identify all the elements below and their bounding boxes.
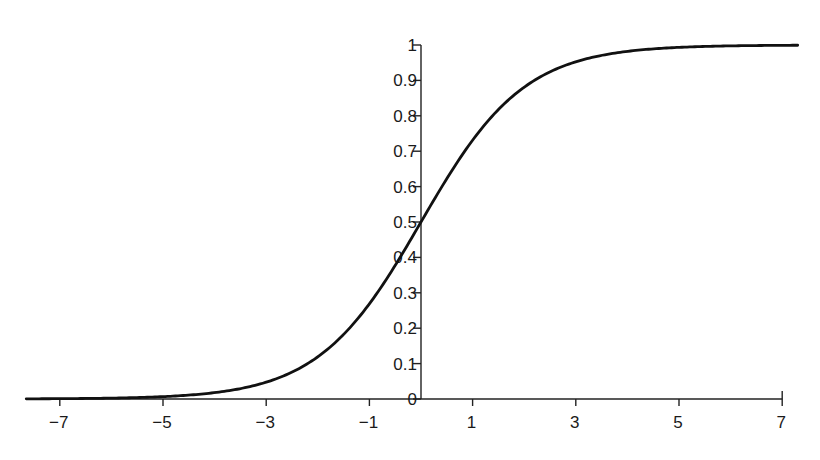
y-tick-label: 0.9 — [393, 71, 417, 90]
x-tick-label: −5 — [152, 413, 171, 432]
sigmoid-chart: −7−5−3−11357 00.10.20.30.40.50.60.70.80.… — [0, 0, 820, 460]
y-tick-label: 0.2 — [393, 319, 417, 338]
y-tick-label: 0.6 — [393, 178, 417, 197]
x-tick-label: 3 — [570, 413, 579, 432]
y-tick-label: 0.1 — [393, 355, 417, 374]
y-ticks: 00.10.20.30.40.50.60.70.80.91 — [393, 36, 421, 409]
x-tick-label: −3 — [256, 413, 275, 432]
x-tick-label: 7 — [776, 413, 785, 432]
y-tick-label: 0.8 — [393, 107, 417, 126]
y-tick-label: 0.5 — [393, 213, 417, 232]
y-tick-label: 1 — [408, 36, 417, 55]
x-tick-label: 5 — [673, 413, 682, 432]
y-tick-label: 0.3 — [393, 284, 417, 303]
x-tick-label: 1 — [467, 413, 476, 432]
y-tick-label: 0.7 — [393, 142, 417, 161]
x-tick-label: −7 — [49, 413, 68, 432]
x-tick-label: −1 — [359, 413, 378, 432]
y-tick-label: 0 — [408, 390, 417, 409]
